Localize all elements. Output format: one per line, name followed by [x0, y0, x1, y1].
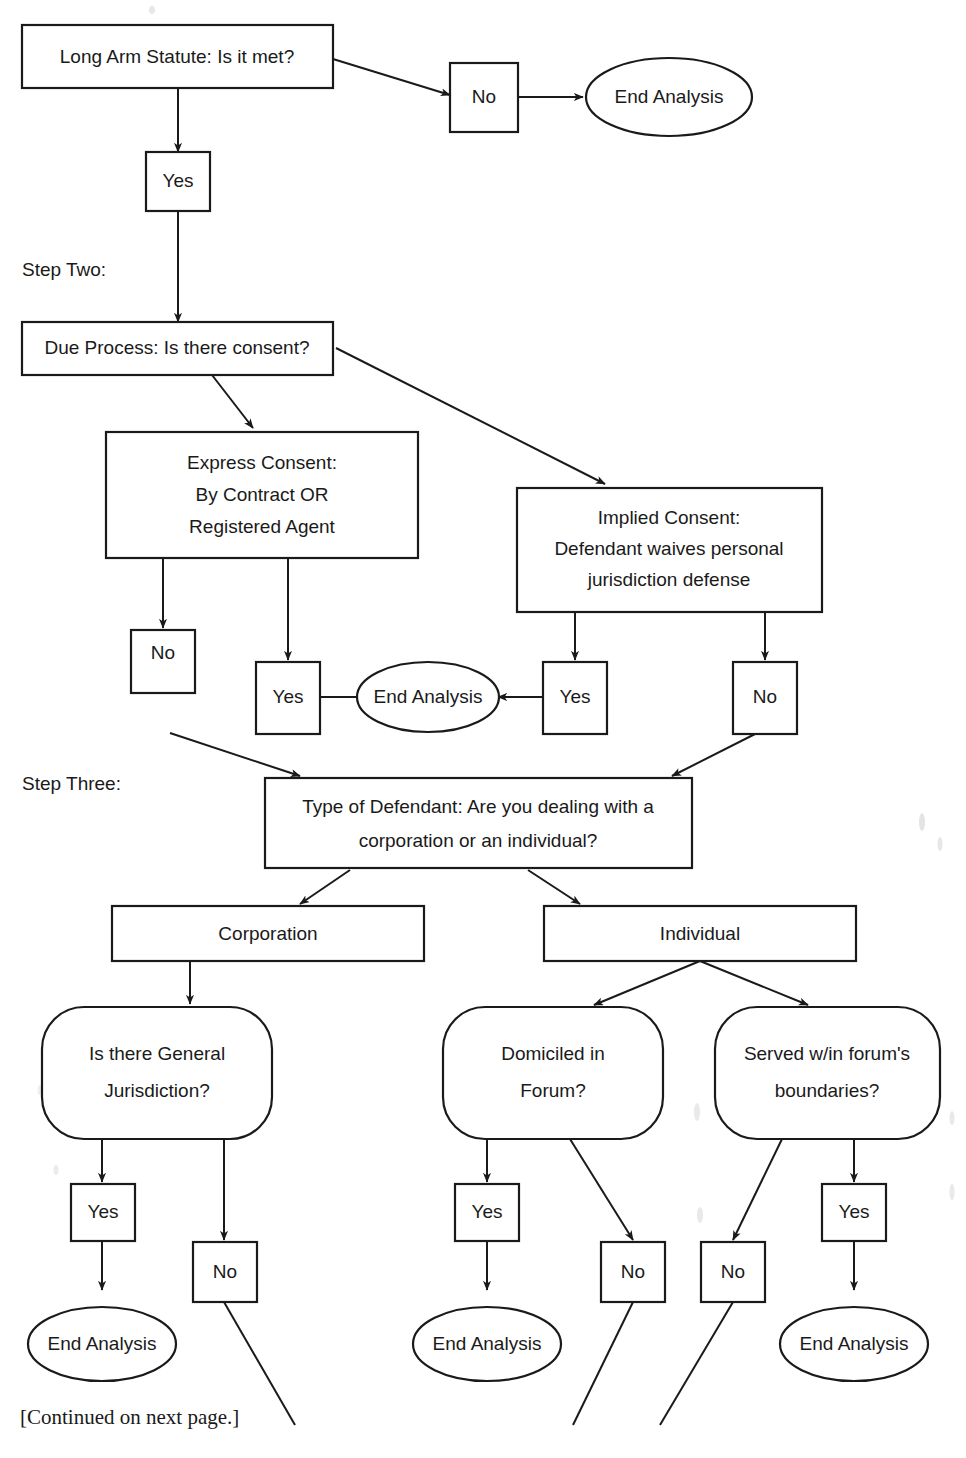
node-long-arm-statute[interactable]: Long Arm Statute: Is it met? [22, 25, 333, 88]
node-dom-end-analysis[interactable]: End Analysis [413, 1307, 561, 1381]
node-gj-end-analysis-label: End Analysis [48, 1333, 157, 1354]
edge-individual-to-domiciled [594, 961, 700, 1005]
node-dom-end-analysis-label: End Analysis [433, 1333, 542, 1354]
node-express-consent-line3: Registered Agent [189, 516, 335, 537]
node-individual-label: Individual [660, 923, 740, 944]
node-long-arm-yes-label: Yes [163, 170, 194, 191]
node-served-line1: Served w/in forum's [744, 1043, 910, 1064]
node-implied-consent-line3: jurisdiction defense [587, 569, 751, 590]
node-gj-no-label: No [213, 1261, 237, 1282]
node-implied-yes[interactable]: Yes [543, 662, 607, 734]
node-gj-no[interactable]: No [193, 1242, 257, 1302]
node-type-of-defendant-line1: Type of Defendant: Are you dealing with … [302, 796, 654, 817]
node-dom-no-label: No [621, 1261, 645, 1282]
edge-servedno-continued [660, 1302, 733, 1425]
node-served-no[interactable]: No [701, 1242, 765, 1302]
node-served-yes[interactable]: Yes [822, 1184, 886, 1241]
node-implied-no-label: No [753, 686, 777, 707]
node-served-line2: boundaries? [775, 1080, 880, 1101]
node-served-yes-label: Yes [839, 1201, 870, 1222]
node-express-yes-label: Yes [273, 686, 304, 707]
step-two-label: Step Two: [22, 259, 106, 280]
node-corporation[interactable]: Corporation [112, 906, 424, 961]
node-long-arm-statute-label: Long Arm Statute: Is it met? [60, 46, 294, 67]
node-express-consent-line2: By Contract OR [195, 484, 328, 505]
node-domiciled-line2: Forum? [520, 1080, 585, 1101]
edge-served-to-no [733, 1139, 782, 1240]
node-type-of-defendant-line2: corporation or an individual? [359, 830, 598, 851]
edge-typedef-to-individual [528, 870, 580, 904]
node-general-jurisdiction-line1: Is there General [89, 1043, 225, 1064]
node-long-arm-end-analysis[interactable]: End Analysis [586, 58, 752, 136]
node-express-yes[interactable]: Yes [256, 662, 320, 734]
node-express-consent[interactable]: Express Consent: By Contract OR Register… [106, 432, 418, 558]
node-implied-consent[interactable]: Implied Consent: Defendant waives person… [517, 488, 822, 612]
node-individual[interactable]: Individual [544, 906, 856, 961]
node-domiciled-in-forum[interactable]: Domiciled in Forum? [443, 1007, 663, 1139]
continued-note: [Continued on next page.] [20, 1405, 239, 1429]
node-due-process-label: Due Process: Is there consent? [44, 337, 309, 358]
node-implied-no[interactable]: No [733, 662, 797, 734]
edge-longarm-to-no [333, 59, 450, 95]
node-implied-consent-line1: Implied Consent: [598, 507, 741, 528]
node-long-arm-end-analysis-label: End Analysis [615, 86, 724, 107]
node-express-consent-line1: Express Consent: [187, 452, 337, 473]
node-dom-no[interactable]: No [601, 1242, 665, 1302]
edge-domno-continued [573, 1302, 633, 1425]
edge-dueprocess-to-express [212, 375, 253, 428]
node-implied-yes-label: Yes [560, 686, 591, 707]
node-served-no-label: No [721, 1261, 745, 1282]
node-served-end-analysis-label: End Analysis [800, 1333, 909, 1354]
node-gj-end-analysis[interactable]: End Analysis [28, 1307, 176, 1381]
node-dom-yes-label: Yes [472, 1201, 503, 1222]
node-due-process[interactable]: Due Process: Is there consent? [22, 322, 333, 375]
node-long-arm-no[interactable]: No [450, 63, 518, 132]
node-served-within-forum[interactable]: Served w/in forum's boundaries? [715, 1007, 940, 1139]
node-consent-end-analysis-label: End Analysis [374, 686, 483, 707]
node-domiciled-line1: Domiciled in [501, 1043, 604, 1064]
node-consent-end-analysis[interactable]: End Analysis [357, 662, 499, 732]
node-general-jurisdiction-line2: Jurisdiction? [104, 1080, 210, 1101]
edge-individual-to-served [700, 961, 808, 1005]
edge-typedef-to-corporation [300, 870, 350, 904]
node-general-jurisdiction[interactable]: Is there General Jurisdiction? [42, 1007, 272, 1139]
node-type-of-defendant[interactable]: Type of Defendant: Are you dealing with … [265, 778, 692, 868]
edge-expressno-to-typedef [170, 733, 300, 776]
edge-impliedno-to-typedef [672, 733, 757, 776]
node-express-no-label: No [151, 642, 175, 663]
node-gj-yes-label: Yes [88, 1201, 119, 1222]
step-three-label: Step Three: [22, 773, 121, 794]
node-gj-yes[interactable]: Yes [71, 1184, 135, 1241]
edge-domiciled-to-no [570, 1139, 633, 1240]
node-corporation-label: Corporation [218, 923, 317, 944]
node-dom-yes[interactable]: Yes [455, 1184, 519, 1241]
node-implied-consent-line2: Defendant waives personal [554, 538, 783, 559]
jurisdiction-flowchart: Step Two: Step Three: Long Arm Statute: … [0, 0, 966, 1458]
node-long-arm-yes[interactable]: Yes [146, 152, 210, 211]
node-served-end-analysis[interactable]: End Analysis [780, 1307, 928, 1381]
node-express-no[interactable]: No [131, 630, 195, 693]
node-long-arm-no-label: No [472, 86, 496, 107]
